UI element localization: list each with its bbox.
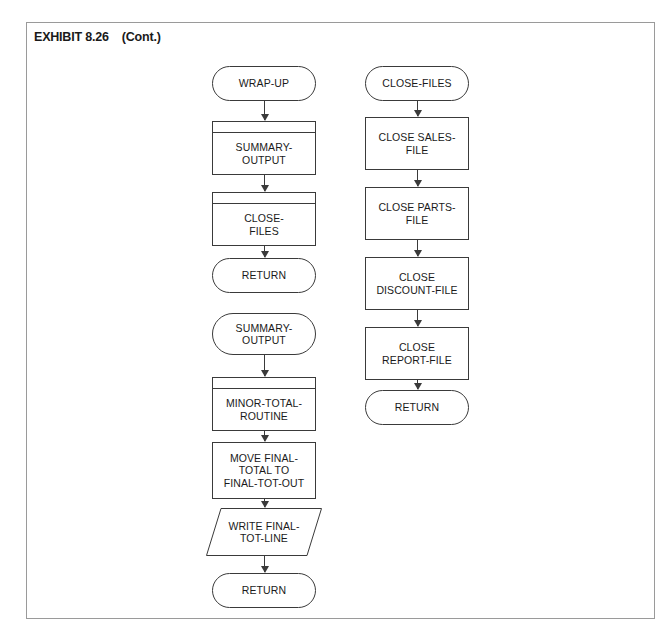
- flow-connector-close-report-file-to-close-files-return: [417, 380, 418, 389]
- flow-node-summary-output-start: SUMMARY- OUTPUT: [212, 313, 316, 355]
- flow-connector-close-sales-file-to-close-parts-file: [417, 170, 418, 186]
- flow-node-close-files-return: RETURN: [365, 390, 469, 425]
- flow-node-label: CLOSE PARTS- FILE: [378, 201, 455, 226]
- flow-connector-close-parts-file-to-close-discount-file: [417, 240, 418, 256]
- flow-connector-close-discount-file-to-close-report-file: [417, 310, 418, 326]
- flow-connector-close-files-call-to-wrap-up-return: [264, 246, 265, 257]
- flow-node-close-discount-file: CLOSE DISCOUNT-FILE: [365, 257, 469, 310]
- flow-node-close-report-file: CLOSE REPORT-FILE: [365, 327, 469, 380]
- flow-node-close-files-start: CLOSE-FILES: [365, 66, 469, 101]
- flow-node-summary-output-call: SUMMARY- OUTPUT: [212, 121, 316, 175]
- flow-node-label: RETURN: [242, 584, 286, 597]
- flow-node-label: MINOR-TOTAL- ROUTINE: [226, 397, 302, 422]
- flow-node-close-parts-file: CLOSE PARTS- FILE: [365, 187, 469, 240]
- flow-connector-move-final-total-to-write-final-tot-line: [264, 499, 265, 507]
- flow-connector-summary-output-start-to-minor-total-routine: [264, 355, 265, 376]
- flow-node-label: CLOSE- FILES: [244, 212, 284, 237]
- flow-connector-close-files-start-to-close-sales-file: [417, 101, 418, 116]
- flowchart-canvas: WRAP-UPSUMMARY- OUTPUTCLOSE- FILESRETURN…: [0, 0, 672, 640]
- flow-node-label: MOVE FINAL- TOTAL TO FINAL-TOT-OUT: [224, 452, 304, 490]
- flow-connector-summary-output-call-to-close-files-call: [264, 175, 265, 191]
- flow-connector-minor-total-routine-to-move-final-total: [264, 431, 265, 441]
- flow-node-close-files-call: CLOSE- FILES: [212, 192, 316, 246]
- flow-node-move-final-total: MOVE FINAL- TOTAL TO FINAL-TOT-OUT: [212, 442, 316, 499]
- flow-node-label: CLOSE DISCOUNT-FILE: [376, 271, 457, 296]
- flow-node-label: WRAP-UP: [239, 77, 289, 90]
- flow-connector-wrap-up-start-to-summary-output-call: [264, 101, 265, 120]
- page-canvas: EXHIBIT 8.26 (Cont.) WRAP-UPSUMMARY- OUT…: [0, 0, 672, 640]
- flow-node-summary-output-return: RETURN: [212, 573, 316, 608]
- flow-node-label: RETURN: [242, 269, 286, 282]
- flow-node-write-final-tot-line: WRITE FINAL- TOT-LINE: [206, 508, 322, 556]
- flow-node-close-sales-file: CLOSE SALES- FILE: [365, 117, 469, 170]
- flow-node-minor-total-routine: MINOR-TOTAL- ROUTINE: [212, 377, 316, 431]
- flow-node-label: WRITE FINAL- TOT-LINE: [228, 520, 299, 545]
- flow-node-label: CLOSE-FILES: [382, 77, 451, 90]
- flow-node-label: CLOSE SALES- FILE: [378, 131, 455, 156]
- flow-node-label: SUMMARY- OUTPUT: [236, 141, 293, 166]
- flow-node-wrap-up-return: RETURN: [212, 258, 316, 293]
- flow-connector-write-final-tot-line-to-summary-output-return: [264, 556, 265, 572]
- flow-node-label: SUMMARY- OUTPUT: [236, 322, 293, 347]
- flow-node-label: CLOSE REPORT-FILE: [382, 341, 452, 366]
- flow-node-label: RETURN: [395, 401, 439, 414]
- flow-node-wrap-up-start: WRAP-UP: [212, 66, 316, 101]
